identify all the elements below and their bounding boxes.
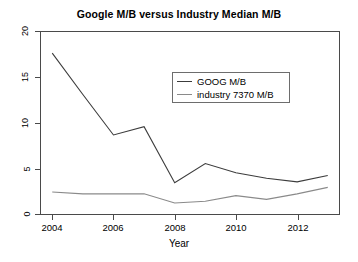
legend-label-industry: industry 7370 M/B xyxy=(197,89,274,100)
legend-item-goog: GOOG M/B xyxy=(177,75,246,88)
legend-swatch-industry xyxy=(177,94,192,95)
line-series-industry xyxy=(52,187,328,203)
chart-figure: Google M/B versus Industry Median M/B 20… xyxy=(0,0,358,262)
legend-swatch-goog xyxy=(177,81,192,82)
chart-legend: GOOG M/B industry 7370 M/B xyxy=(172,72,290,103)
legend-label-goog: GOOG M/B xyxy=(197,76,246,87)
series-layer xyxy=(0,0,358,262)
legend-item-industry: industry 7370 M/B xyxy=(177,88,274,101)
